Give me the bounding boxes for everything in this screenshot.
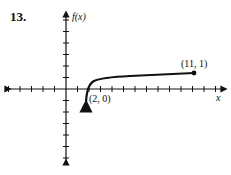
x-axis-label: x bbox=[215, 92, 221, 103]
point-label-11-1: (11, 1) bbox=[181, 58, 207, 70]
point-label-2-0: (2, 0) bbox=[89, 93, 111, 105]
y-axis-label: f(x) bbox=[72, 11, 87, 23]
axes bbox=[8, 14, 224, 162]
graph: f(x) x (2, 0) (11, 1) bbox=[0, 0, 231, 175]
point-11-1 bbox=[192, 71, 197, 76]
